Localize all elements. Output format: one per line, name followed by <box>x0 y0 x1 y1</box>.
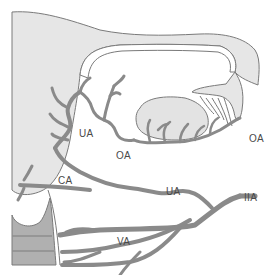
fallopian-tube <box>80 44 236 78</box>
uterus <box>12 12 259 195</box>
label-oa-right: OA <box>249 134 264 144</box>
cervix <box>12 198 56 265</box>
label-ca: CA <box>58 176 73 186</box>
anatomy-diagram <box>0 0 277 275</box>
label-ua-upper: UA <box>79 129 94 139</box>
label-va: VA <box>117 237 130 247</box>
label-oa-left: OA <box>116 151 131 161</box>
label-iia: IIA <box>244 193 257 203</box>
label-ua-lower: UA <box>166 187 181 197</box>
